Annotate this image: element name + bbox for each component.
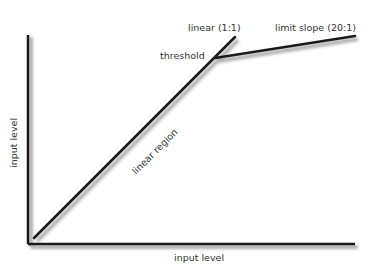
linear-line [34, 37, 235, 238]
line-shadows [31, 37, 358, 247]
limit-slope-label: limit slope (20:1) [275, 22, 356, 33]
linear-label: linear (1:1) [188, 22, 241, 33]
y-axis-label: input level [8, 118, 19, 168]
threshold-label: threshold [160, 50, 205, 61]
x-axis-label: input level [174, 252, 224, 263]
compressor-diagram: linear (1:1) limit slope (20:1) threshol… [0, 0, 384, 274]
